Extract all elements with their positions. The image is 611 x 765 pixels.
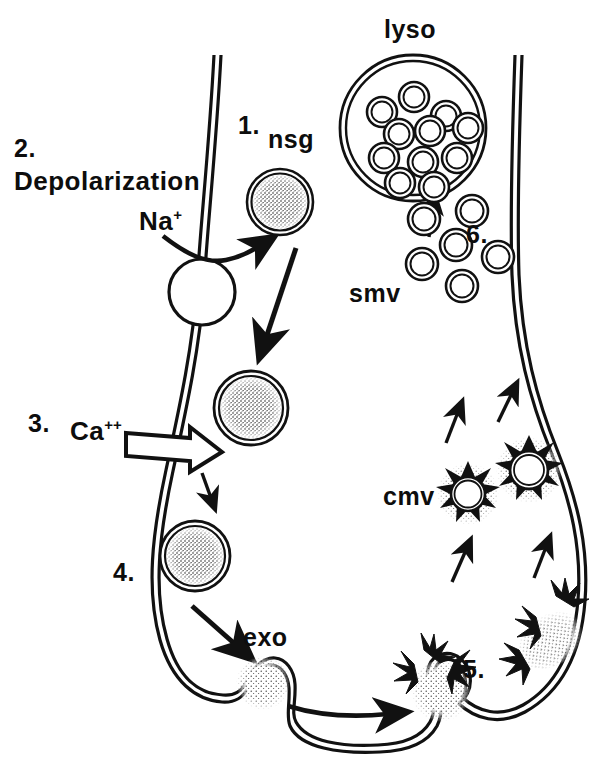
coated-microvesicle-2 (495, 435, 563, 503)
nsg-granule-1 (247, 169, 313, 235)
label-step-2: 2. (14, 136, 36, 161)
label-cmv: cmv (383, 484, 435, 509)
label-calcium-ion: Ca++ (70, 417, 122, 444)
label-step-1: 1. (238, 113, 260, 138)
lysosome (340, 55, 486, 202)
lyso-vesicle (415, 116, 445, 146)
lyso-vesicle (442, 143, 472, 173)
exocytosis-release-cloud (236, 656, 290, 710)
smv-item (408, 203, 440, 235)
label-step-5: 5. (463, 657, 485, 682)
nsg-granule-2 (214, 371, 288, 445)
sodium-channel (169, 259, 235, 325)
smooth-microvesicle-group (406, 195, 514, 302)
label-lyso: lyso (384, 17, 436, 42)
ca-charge: ++ (104, 416, 122, 433)
label-step-6: 6. (466, 222, 488, 247)
label-depolarization: Depolarization (14, 168, 200, 194)
label-exo: exo (243, 625, 288, 650)
label-nsg: nsg (268, 127, 314, 152)
na-influx-arrow (163, 236, 258, 261)
label-sodium-ion: Na+ (139, 207, 182, 234)
nsg-granule-3-docked (160, 521, 230, 591)
smv-item (406, 248, 438, 280)
na-charge: + (173, 206, 182, 223)
granule-descent-arrow (202, 473, 211, 498)
lyso-vesicle (453, 113, 483, 143)
coated-microvesicle-1 (436, 461, 500, 525)
lyso-vesicle (419, 172, 449, 202)
coated-membrane-region (499, 578, 597, 685)
smv-item (446, 270, 478, 302)
nsg-transport-arrow (266, 248, 296, 338)
na-text: Na (139, 206, 173, 236)
label-step-4: 4. (113, 560, 135, 585)
figure-canvas: 1. nsg 2. Depolarization Na+ 3. Ca++ 4. … (0, 0, 611, 765)
label-step-3: 3. (28, 411, 50, 436)
ca-text: Ca (70, 416, 104, 446)
lyso-vesicle (399, 82, 429, 112)
membrane-flow-arrow (288, 706, 388, 715)
docking-fusion-arrow (192, 606, 236, 645)
diagram-svg (0, 0, 611, 765)
label-smv: smv (349, 281, 401, 306)
lyso-vesicle (385, 168, 415, 198)
